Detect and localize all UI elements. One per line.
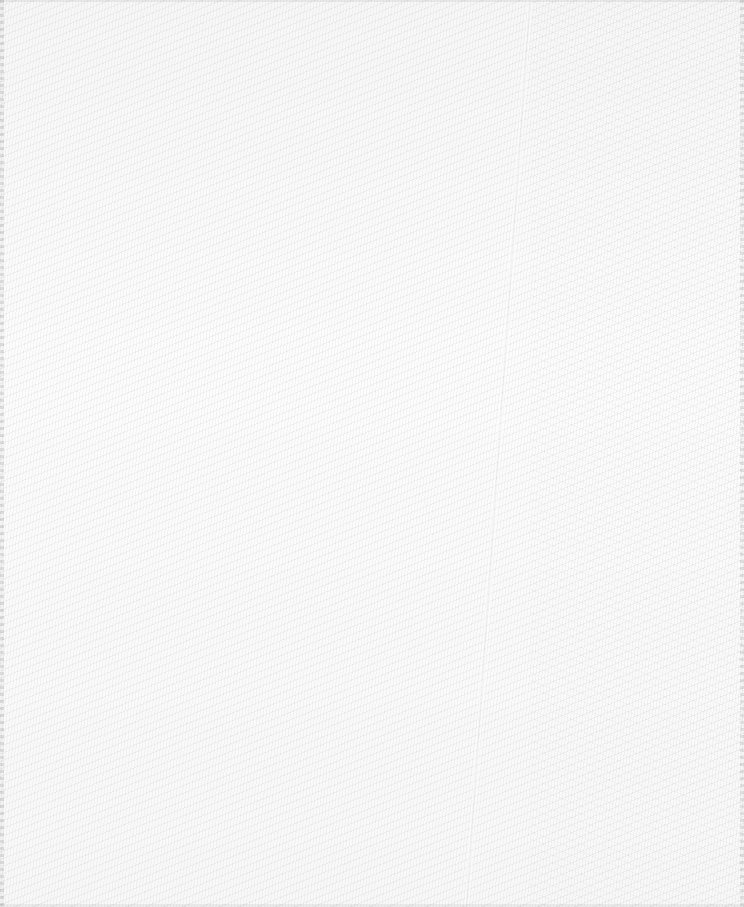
fabric-texture <box>0 0 744 907</box>
herringbone-panel <box>530 0 744 907</box>
weave-seam <box>465 0 532 907</box>
fabric-edge-right <box>740 0 744 907</box>
fabric-edge-top <box>0 0 744 2</box>
fabric-edge-left <box>0 0 4 907</box>
